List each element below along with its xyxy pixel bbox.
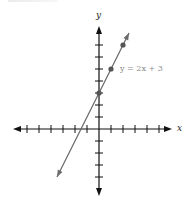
equation-label: y = 2x + 3 — [120, 65, 163, 73]
graph-line — [57, 33, 129, 177]
x-axis-right-arrow-icon — [164, 126, 172, 132]
line-end-arrow-icon — [124, 33, 129, 40]
coordinate-plane — [0, 0, 189, 207]
line-start-arrow-icon — [57, 170, 62, 177]
x-axis-label: x — [177, 124, 182, 133]
x-axis-left-arrow-icon — [13, 126, 21, 132]
data-point — [108, 66, 113, 71]
y-axis-down-arrow-icon — [96, 188, 102, 196]
data-point — [120, 42, 125, 47]
y-axis-up-arrow-icon — [96, 26, 102, 34]
line-y-equals-2x-plus-3 — [57, 33, 129, 177]
y-axis-label: y — [96, 11, 101, 20]
axes — [13, 26, 172, 196]
data-point — [96, 90, 101, 95]
